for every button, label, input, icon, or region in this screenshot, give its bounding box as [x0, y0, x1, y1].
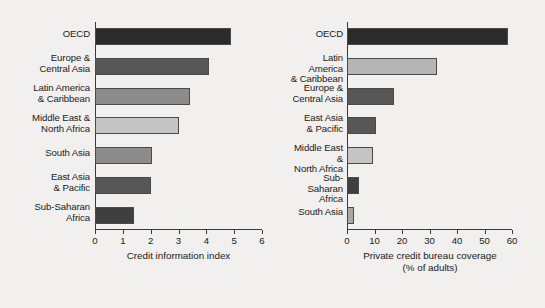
left-x-tick-group: 0123456 — [95, 230, 262, 248]
left-category-label-1: Europe & Central Asia — [2, 53, 90, 74]
right-bar — [347, 88, 394, 105]
right-category-label-4: Middle East & North Africa — [288, 143, 343, 175]
left-chart-panel: OECD Europe & Central Asia Latin America… — [0, 0, 280, 290]
left-x-tick — [123, 230, 124, 234]
right-x-tick-group: 0102030405060 — [347, 230, 512, 248]
right-bar — [347, 177, 359, 194]
left-category-label-4: South Asia — [2, 148, 90, 159]
right-bar-row — [347, 141, 373, 171]
right-bar-row — [347, 200, 354, 230]
left-bar — [95, 147, 152, 164]
left-x-tick-label: 5 — [222, 235, 246, 246]
right-category-label-0-line1: OECD — [288, 29, 343, 40]
left-x-tick — [262, 230, 263, 234]
right-category-label-4-line1: Middle East & — [288, 143, 343, 164]
right-category-label-2: Europe & Central Asia — [288, 83, 343, 104]
right-category-label-5-line1: Sub-Saharan — [288, 173, 343, 194]
left-x-tick — [206, 230, 207, 234]
right-x-tick-label: 40 — [445, 235, 469, 246]
left-category-label-5-line1: East Asia — [2, 172, 90, 183]
right-category-label-5: Sub-Saharan Africa — [288, 173, 343, 205]
right-x-tick-label: 60 — [500, 235, 524, 246]
right-bar — [347, 28, 508, 45]
left-x-tick — [234, 230, 235, 234]
right-bar-row — [347, 52, 437, 82]
right-x-tick — [347, 230, 348, 234]
left-bar — [95, 58, 209, 75]
left-bar — [95, 207, 134, 224]
left-category-label-6-line1: Sub-Saharan — [2, 202, 90, 213]
right-bar — [347, 207, 354, 224]
left-category-label-3-line1: Middle East & — [2, 113, 90, 124]
left-bar — [95, 28, 231, 45]
right-plot-area — [347, 22, 512, 230]
left-category-label-2-line1: Latin America — [2, 83, 90, 94]
left-category-label-3-line2: North Africa — [2, 124, 90, 135]
right-x-tick — [375, 230, 376, 234]
right-bar-row — [347, 22, 508, 52]
left-x-tick — [179, 230, 180, 234]
right-category-label-0: OECD — [288, 29, 343, 40]
right-category-label-6-line1: South Asia — [288, 207, 343, 218]
right-bar-row — [347, 81, 394, 111]
right-x-tick — [402, 230, 403, 234]
left-category-label-2: Latin America & Caribbean — [2, 83, 90, 104]
right-x-tick-label: 20 — [390, 235, 414, 246]
right-category-label-2-line2: Central Asia — [288, 94, 343, 105]
left-x-tick-label: 6 — [250, 235, 274, 246]
right-x-tick — [457, 230, 458, 234]
left-bar-row — [95, 200, 134, 230]
left-category-label-5-line2: & Pacific — [2, 183, 90, 194]
left-category-label-6: Sub-Saharan Africa — [2, 202, 90, 223]
right-x-tick-label: 0 — [335, 235, 359, 246]
left-bar-row — [95, 141, 152, 171]
left-bar-row — [95, 81, 190, 111]
right-category-label-1-line1: Latin America — [288, 53, 343, 74]
left-plot-area — [95, 22, 262, 230]
right-category-label-1: Latin America & Caribbean — [288, 53, 343, 85]
right-bar — [347, 117, 376, 134]
right-bar-row — [347, 171, 359, 201]
left-x-tick-label: 4 — [194, 235, 218, 246]
right-category-label-3: East Asia & Pacific — [288, 113, 343, 134]
left-x-tick — [151, 230, 152, 234]
right-axis-title-line2: (% of adults) — [330, 262, 530, 274]
right-x-tick — [512, 230, 513, 234]
right-x-tick — [485, 230, 486, 234]
right-category-label-5-line2: Africa — [288, 194, 343, 205]
right-category-label-3-line1: East Asia — [288, 113, 343, 124]
right-x-tick-label: 30 — [418, 235, 442, 246]
left-category-label-0-line1: OECD — [2, 29, 90, 40]
left-x-tick-label: 0 — [83, 235, 107, 246]
right-category-label-6: South Asia — [288, 207, 343, 218]
left-x-tick-label: 1 — [111, 235, 135, 246]
figure-container: OECD Europe & Central Asia Latin America… — [0, 0, 545, 308]
left-bar-row — [95, 22, 231, 52]
right-category-label-2-line1: Europe & — [288, 83, 343, 94]
right-axis-title: Private credit bureau coverage (% of adu… — [330, 250, 530, 273]
right-x-tick-label: 10 — [363, 235, 387, 246]
right-axis-title-line1: Private credit bureau coverage — [330, 250, 530, 262]
left-axis-title: Credit information index — [95, 250, 262, 262]
right-bar-row — [347, 111, 376, 141]
left-category-label-1-line2: Central Asia — [2, 64, 90, 75]
right-category-label-3-line2: & Pacific — [288, 124, 343, 135]
right-bar — [347, 58, 437, 75]
left-category-label-2-line2: & Caribbean — [2, 94, 90, 105]
left-bar — [95, 177, 151, 194]
right-bar — [347, 147, 373, 164]
right-x-tick — [430, 230, 431, 234]
left-x-tick-label: 3 — [167, 235, 191, 246]
left-x-tick-label: 2 — [139, 235, 163, 246]
left-category-label-4-line1: South Asia — [2, 148, 90, 159]
left-x-tick — [95, 230, 96, 234]
left-bar-row — [95, 111, 179, 141]
left-bar — [95, 88, 190, 105]
left-category-label-1-line1: Europe & — [2, 53, 90, 64]
left-category-label-0: OECD — [2, 29, 90, 40]
left-bar-row — [95, 52, 209, 82]
left-bar — [95, 117, 179, 134]
left-category-label-5: East Asia & Pacific — [2, 172, 90, 193]
left-bar-row — [95, 171, 151, 201]
left-category-label-3: Middle East & North Africa — [2, 113, 90, 134]
